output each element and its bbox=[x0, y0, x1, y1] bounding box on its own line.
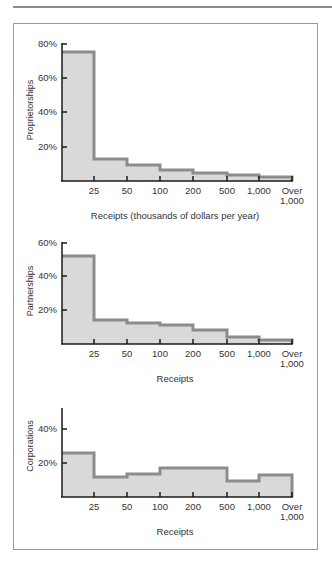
x-tick-label: 1,000 bbox=[274, 511, 310, 522]
x-tick-label: 1,000 bbox=[241, 501, 277, 512]
x-tick-label: 50 bbox=[109, 501, 145, 512]
x-tick-label: 200 bbox=[175, 501, 211, 512]
x-tick-label: 100 bbox=[142, 501, 178, 512]
y-axis-label: Corporations bbox=[25, 406, 35, 486]
x-axis-label: Receipts bbox=[45, 526, 305, 537]
chart-corporations: 40% 20% Corporations 25 50 100 200 500 1… bbox=[0, 0, 332, 540]
x-tick-label: 25 bbox=[76, 501, 112, 512]
x-tick-label: 500 bbox=[209, 501, 245, 512]
